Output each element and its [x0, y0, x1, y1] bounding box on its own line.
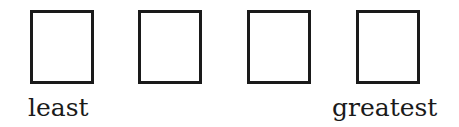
answer-box-3[interactable] [247, 10, 311, 84]
greatest-label: greatest [332, 94, 437, 122]
answer-box-4[interactable] [356, 10, 420, 84]
answer-box-1[interactable] [30, 10, 94, 84]
answer-box-2[interactable] [138, 10, 202, 84]
least-label: least [28, 94, 89, 122]
